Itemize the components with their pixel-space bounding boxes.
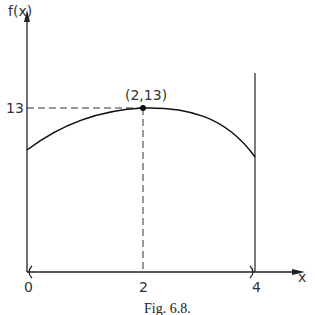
point-annotation: (2,13) [125, 87, 167, 103]
function-curve [27, 108, 255, 157]
x-tick-2: 2 [139, 279, 148, 295]
x-tick-4: 4 [252, 279, 261, 295]
x-axis-label: x [298, 269, 306, 285]
y-tick-13: 13 [6, 100, 24, 116]
x-tick-0: 0 [24, 279, 33, 295]
y-axis-label: f(x) [8, 3, 32, 19]
figure-caption: Fig. 6.8. [144, 301, 191, 315]
max-point [140, 105, 146, 111]
chart-figure: f(x) x 13 0 2 4 (2,13) Fig. 6.8. [0, 0, 315, 315]
